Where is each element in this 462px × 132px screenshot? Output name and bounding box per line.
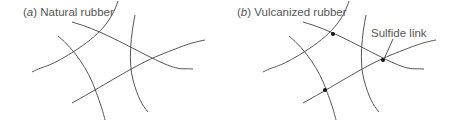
diagram-canvas [0,0,462,132]
polymer-chain [72,40,205,103]
panel-b-title: (b) Vulcanized rubber [237,6,347,18]
panel-natural-rubber [32,1,205,120]
polymer-chain [289,36,336,120]
panel-a-title: (a) Natural rubber [23,6,114,18]
panel-vulcanized-rubber [263,1,436,120]
sulfide-link-label: Sulfide link [371,27,427,39]
polymer-chain [130,15,148,112]
sulfide-link-dot [323,88,327,92]
sulfide-link-dot [331,32,335,36]
polymer-chain [58,36,105,120]
polymer-chain [303,40,436,103]
